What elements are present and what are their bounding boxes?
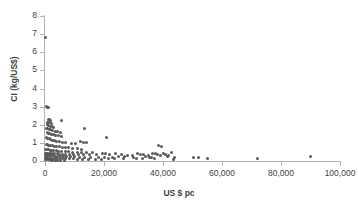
data-point (309, 155, 312, 158)
x-axis-tick-label: 20,000 (91, 168, 117, 179)
x-axis-tick (45, 162, 46, 166)
y-axis-tick-label: 6 (32, 46, 37, 57)
y-axis-tick-label: 2 (32, 119, 37, 130)
y-axis-tick-label: 3 (32, 101, 37, 112)
data-point (63, 159, 66, 162)
scatter-chart: 012345678 020,00040,00060,00080,000100,0… (0, 0, 358, 208)
data-point (126, 154, 129, 157)
data-point (113, 157, 116, 160)
data-point (100, 158, 103, 161)
data-point (148, 156, 151, 159)
y-axis-tick-label: 7 (32, 28, 37, 39)
data-point (72, 157, 75, 160)
data-point (83, 127, 86, 130)
data-point (59, 131, 62, 134)
data-point (170, 151, 173, 154)
data-point (64, 141, 67, 144)
x-axis-title: US $ pc (0, 188, 358, 198)
data-point (71, 147, 74, 150)
data-point (76, 147, 79, 150)
y-axis-tick-label: 4 (32, 83, 37, 94)
x-axis-tick (163, 162, 164, 166)
data-point (197, 156, 200, 159)
y-axis-tick-label: 5 (32, 64, 37, 75)
data-point (94, 158, 97, 161)
data-point (172, 158, 175, 161)
data-point (141, 157, 144, 160)
x-axis-tick (340, 162, 341, 166)
plot-area (45, 16, 340, 161)
y-axis-tick-label: 1 (32, 137, 37, 148)
data-point (76, 158, 79, 161)
data-point (64, 146, 67, 149)
x-axis-tick (104, 162, 105, 166)
data-point (67, 146, 70, 149)
x-axis-tick (222, 162, 223, 166)
data-point (104, 152, 107, 155)
x-axis-tick-label: 100,000 (325, 168, 356, 179)
data-point (59, 159, 62, 162)
x-axis-tick-label: 40,000 (150, 168, 176, 179)
data-point (117, 155, 120, 158)
data-point (192, 156, 195, 159)
data-point (105, 136, 108, 139)
data-point (135, 157, 138, 160)
data-point (256, 157, 259, 160)
data-point (144, 155, 147, 158)
data-point (159, 154, 162, 157)
data-point (85, 141, 88, 144)
y-axis-tick-label: 8 (32, 10, 37, 21)
data-point (122, 157, 125, 160)
data-point (206, 157, 209, 160)
data-point (60, 119, 63, 122)
data-point (166, 155, 169, 158)
data-point (68, 157, 71, 160)
x-axis-tick-label: 0 (43, 168, 48, 179)
data-point (103, 156, 106, 159)
data-point (70, 142, 73, 145)
data-point (47, 106, 50, 109)
x-axis-tick-label: 80,000 (268, 168, 294, 179)
data-point (87, 158, 90, 161)
data-point (107, 157, 110, 160)
y-axis-tick-label: 0 (32, 155, 37, 166)
data-point (91, 151, 94, 154)
data-point (153, 157, 156, 160)
data-point (74, 142, 77, 145)
y-axis-title: CI (kg/US$) (9, 29, 19, 129)
data-point (44, 36, 47, 39)
x-axis-tick (281, 162, 282, 166)
data-point (81, 158, 84, 161)
data-point (60, 135, 63, 138)
x-axis-line (45, 161, 341, 162)
x-axis-tick-label: 60,000 (209, 168, 235, 179)
data-point (160, 145, 163, 148)
